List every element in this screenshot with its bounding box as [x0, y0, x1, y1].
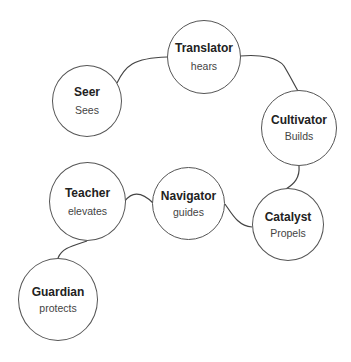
node-title: Seer: [74, 85, 100, 100]
edge-seer-translator: [117, 57, 167, 83]
node-subtitle: elevates: [68, 204, 107, 218]
node-title: Teacher: [65, 186, 110, 201]
node-title: Catalyst: [265, 210, 312, 225]
edge-teacher-navigator: [125, 194, 153, 203]
node-subtitle: Sees: [75, 103, 99, 117]
edge-translator-cultivator: [240, 55, 298, 91]
node-title: Navigator: [161, 189, 216, 204]
node-subtitle: Propels: [270, 226, 306, 240]
node-subtitle: Builds: [285, 129, 314, 143]
node-cultivator: Cultivator Builds: [261, 90, 337, 166]
node-subtitle: guides: [173, 205, 204, 219]
node-title: Cultivator: [271, 113, 327, 128]
node-subtitle: hears: [191, 59, 217, 73]
node-navigator: Navigator guides: [152, 167, 225, 240]
node-teacher: Teacher elevates: [49, 162, 126, 241]
node-title: Guardian: [32, 285, 85, 300]
node-catalyst: Catalyst Propels: [252, 188, 324, 261]
node-subtitle: protects: [39, 301, 76, 315]
edge-navigator-catalyst: [225, 204, 252, 227]
node-title: Translator: [175, 41, 233, 56]
node-guardian: Guardian protects: [18, 258, 98, 341]
node-translator: Translator hears: [167, 20, 241, 94]
edge-teacher-guardian: [58, 241, 87, 258]
diagram-canvas: Seer Sees Translator hears Cultivator Bu…: [0, 0, 351, 362]
edge-cultivator-catalyst: [286, 166, 299, 189]
node-seer: Seer Sees: [52, 65, 122, 137]
